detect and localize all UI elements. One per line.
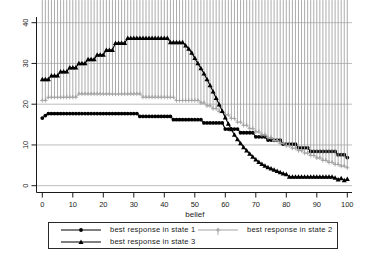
x-tick-label: 0 <box>40 200 44 209</box>
x-tick-label: 40 <box>160 200 168 209</box>
series-3 <box>40 36 350 183</box>
triangle-marker-icon <box>59 237 103 247</box>
y-tick-label: 40 <box>21 19 30 27</box>
chart-figure: 0102030400102030405060708090100belief be… <box>0 0 372 269</box>
legend-item-2: best response in state 2 <box>196 224 333 235</box>
y-tick-label: 20 <box>21 100 30 108</box>
x-tick-label: 50 <box>191 200 199 209</box>
legend-item-3: best response in state 3 <box>59 236 196 247</box>
legend: best response in state 1best response in… <box>48 222 338 249</box>
x-tick-label: 10 <box>69 200 77 209</box>
x-tick-label: 30 <box>130 200 138 209</box>
legend-label: best response in state 2 <box>247 225 332 234</box>
x-tick-label: 100 <box>341 200 354 209</box>
x-tick-label: 80 <box>282 200 290 209</box>
legend-label: best response in state 1 <box>110 225 195 234</box>
series-1 <box>40 112 349 160</box>
series-2 <box>40 0 349 170</box>
plot-area: 0102030400102030405060708090100belief <box>0 0 372 220</box>
legend-item-1: best response in state 1 <box>59 224 196 235</box>
x-axis-title: belief <box>185 210 205 219</box>
x-tick-label: 60 <box>221 200 229 209</box>
plus-marker-icon <box>196 225 240 235</box>
y-tick-label: 0 <box>21 184 30 188</box>
circle-marker-icon <box>59 225 103 235</box>
x-tick-label: 90 <box>313 200 321 209</box>
legend-label: best response in state 3 <box>110 237 195 246</box>
y-tick-label: 10 <box>21 141 30 149</box>
y-tick-label: 30 <box>21 59 30 67</box>
x-tick-label: 70 <box>252 200 260 209</box>
x-tick-label: 20 <box>99 200 107 209</box>
